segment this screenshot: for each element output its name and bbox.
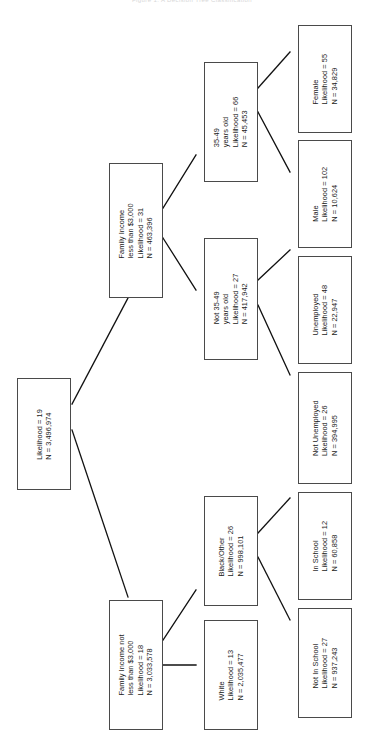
node-in-school-title: In School: [311, 521, 320, 572]
node-female-likelihood: Likelihood = 55: [320, 54, 329, 105]
node-root[interactable]: Likelihood = 19 N = 3,496,974: [17, 378, 71, 490]
decision-tree-figure: Figure 1. A Decision Tree Classification: [0, 0, 384, 735]
node-unemployed-n: N = 22,947: [330, 285, 339, 336]
edge-incomeless-to-age3549: [163, 155, 196, 208]
edge-incomenotless-to-blackother: [163, 590, 196, 640]
node-white-title: White: [217, 650, 226, 701]
node-age-not-35-49-n: N = 417,942: [240, 274, 249, 325]
node-unemployed-likelihood: Likelihood = 48: [320, 285, 329, 336]
node-female-n: N = 34,829: [330, 54, 339, 105]
node-not-in-school[interactable]: Not In School Likelihood = 27 N = 937,24…: [298, 608, 352, 718]
node-male-n: N = 10,624: [330, 167, 339, 222]
node-family-income-less-than-3000[interactable]: Family Income less than $3,000 Likelihoo…: [109, 163, 163, 298]
node-age-not-35-49-title-line1: Not 35-49: [212, 274, 221, 325]
node-root-likelihood: Likelihood = 19: [35, 409, 44, 460]
node-age-35-49-n: N = 45,453: [240, 97, 249, 148]
edge-incomeless-to-not-age3549: [163, 238, 196, 290]
node-black-other-title: Black/Other: [217, 526, 226, 577]
edge-age3549-to-female: [258, 52, 290, 88]
node-male-likelihood: Likelihood = 102: [320, 167, 329, 222]
node-not-in-school-likelihood: Likelihood = 27: [320, 638, 329, 689]
edge-root-to-income-not-less: [72, 430, 128, 597]
node-income-not-less-title-line1: Family Income not: [117, 634, 126, 695]
node-unemployed-title: Unemployed: [311, 285, 320, 336]
node-income-less-n: N = 463,396: [145, 203, 154, 258]
node-age-not-35-49-likelihood: Likelihood = 27: [231, 274, 240, 325]
edge-notage3549-to-notunemployed: [258, 305, 290, 375]
node-root-n: N = 3,496,974: [44, 409, 53, 460]
node-age-35-49[interactable]: 35-49 years old Likelihood = 66 N = 45,4…: [204, 62, 258, 182]
node-not-in-school-title: Not In School: [311, 638, 320, 689]
edge-notage3549-to-unemployed: [258, 250, 290, 280]
node-in-school-likelihood: Likelihood = 12: [320, 521, 329, 572]
node-income-not-less-title-line2: less than $3,000: [127, 634, 136, 695]
node-male-title: Male: [311, 167, 320, 222]
node-not-in-school-n: N = 937,243: [330, 638, 339, 689]
node-black-other-n: N = 998,101: [236, 526, 245, 577]
edge-blackother-to-inschool: [258, 498, 290, 533]
node-black-other[interactable]: Black/Other Likelihood = 26 N = 998,101: [204, 496, 258, 606]
node-white[interactable]: White Likelihood = 13 N = 2,035,477: [204, 620, 258, 730]
node-white-likelihood: Likelihood = 13: [226, 650, 235, 701]
node-white-n: N = 2,035,477: [236, 650, 245, 701]
node-age-35-49-title-line1: 35-49: [212, 97, 221, 148]
node-not-unemployed-likelihood: Likelihood = 26: [320, 400, 329, 456]
node-family-income-not-less-than-3000[interactable]: Family Income not less than $3,000 Likel…: [109, 600, 163, 730]
node-not-unemployed-title: Not Unemployed: [311, 400, 320, 456]
edge-age3549-to-male: [258, 112, 290, 172]
node-female[interactable]: Female Likelihood = 55 N = 34,829: [298, 25, 352, 133]
node-age-35-49-likelihood: Likelihood = 66: [231, 97, 240, 148]
node-male[interactable]: Male Likelihood = 102 N = 10,624: [298, 140, 352, 248]
node-in-school[interactable]: In School Likelihood = 12 N = 60,858: [298, 492, 352, 600]
node-age-not-35-49-title-line2: years old: [222, 274, 231, 325]
node-unemployed[interactable]: Unemployed Likelihood = 48 N = 22,947: [298, 256, 352, 364]
node-not-unemployed[interactable]: Not Unemployed Likelihood = 26 N = 394,9…: [298, 372, 352, 484]
node-black-other-likelihood: Likelihood = 26: [226, 526, 235, 577]
node-income-not-less-likelihood: Likelihood = 18: [136, 634, 145, 695]
node-female-title: Female: [311, 54, 320, 105]
node-age-35-49-title-line2: years old: [222, 97, 231, 148]
edge-blackother-to-notinschool: [258, 557, 290, 620]
node-in-school-n: N = 60,858: [330, 521, 339, 572]
node-age-not-35-49[interactable]: Not 35-49 years old Likelihood = 27 N = …: [204, 238, 258, 360]
node-not-unemployed-n: N = 394,995: [330, 400, 339, 456]
edge-root-to-income-less: [72, 298, 128, 404]
node-income-not-less-n: N = 3,033,578: [145, 634, 154, 695]
